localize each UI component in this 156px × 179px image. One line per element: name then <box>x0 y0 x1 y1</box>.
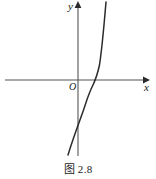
cubic-curve-path <box>68 2 106 155</box>
y-axis-label: y <box>68 1 73 12</box>
figure-caption: 图 2.8 <box>0 160 156 176</box>
y-axis-arrowhead <box>75 1 82 8</box>
origin-label: O <box>69 82 76 92</box>
figure-container: y x O 图 2.8 <box>0 0 156 179</box>
coordinate-plot <box>0 0 156 179</box>
x-axis-label: x <box>144 82 149 93</box>
